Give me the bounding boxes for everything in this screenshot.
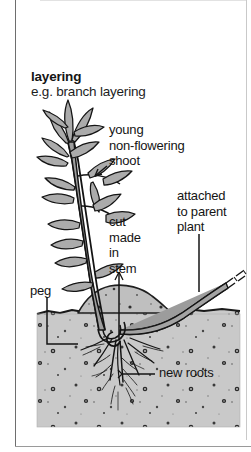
- label-new-roots: new roots: [159, 365, 214, 381]
- figure-container: layering e.g. branch layering young non-…: [0, 0, 251, 452]
- label-peg: peg: [30, 283, 51, 299]
- label-cut-made-in-stem: cut made in stem: [109, 214, 141, 276]
- label-young-shoot: young non-flowering shoot: [109, 122, 184, 169]
- figure-title: layering: [31, 70, 81, 84]
- figure-subtitle: e.g. branch layering: [31, 85, 146, 99]
- label-attached-parent: attached to parent plant: [177, 188, 227, 235]
